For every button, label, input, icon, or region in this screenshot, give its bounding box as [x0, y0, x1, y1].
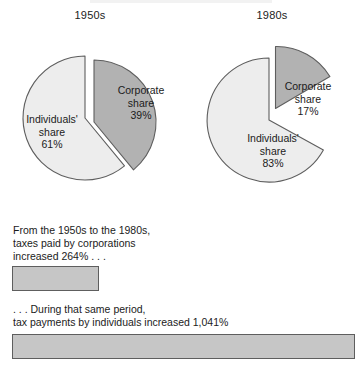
label-value: 17% [272, 105, 344, 118]
label-line-1: Individuals' [231, 132, 315, 145]
label-line-2: share [231, 145, 315, 158]
pie-title-1980s: 1980s [240, 9, 304, 21]
caption-line-3: increased 264% . . . [13, 250, 150, 263]
label-line-2: share [12, 126, 92, 139]
pie-1980s-individuals-label: Individuals' share 83% [231, 132, 315, 170]
pie-charts-region: 1950s 1980s Corporate share 39% Individu… [0, 0, 362, 212]
label-line-1: Corporate [272, 80, 344, 93]
label-line-1: Corporate [104, 84, 178, 97]
caption-line-2: taxes paid by corporations [13, 237, 150, 250]
individuals-increase-bar [12, 334, 355, 359]
caption-line-1: From the 1950s to the 1980s, [13, 224, 150, 237]
label-value: 83% [231, 157, 315, 170]
pie-title-1950s: 1950s [58, 9, 122, 21]
individuals-bar-caption: . . . During that same period, tax payme… [13, 303, 228, 329]
label-value: 39% [104, 109, 178, 122]
label-value: 61% [12, 138, 92, 151]
caption-line-2: tax payments by individuals increased 1,… [13, 316, 228, 329]
corporate-increase-bar [12, 266, 99, 291]
pie-1980s-corporate-label: Corporate share 17% [272, 80, 344, 118]
caption-line-1: . . . During that same period, [13, 303, 228, 316]
tax-share-figure: 1950s 1980s Corporate share 39% Individu… [0, 0, 362, 365]
label-line-2: share [272, 93, 344, 106]
pie-1950s-corporate-label: Corporate share 39% [104, 84, 178, 122]
pie-1950s-individuals-label: Individuals' share 61% [12, 113, 92, 151]
label-line-1: Individuals' [12, 113, 92, 126]
corporate-bar-caption: From the 1950s to the 1980s, taxes paid … [13, 224, 150, 264]
label-line-2: share [104, 97, 178, 110]
